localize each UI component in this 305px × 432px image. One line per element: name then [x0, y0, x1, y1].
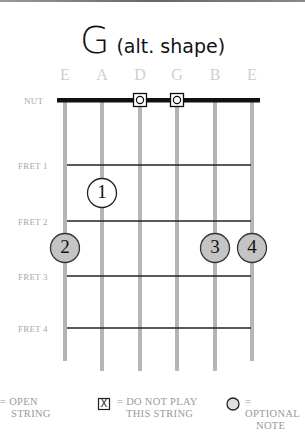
- optional-note-icon: [173, 96, 180, 103]
- finger-2-number: 2: [50, 236, 80, 258]
- string-g: [175, 101, 179, 371]
- legend-open-line2: STRING: [0, 408, 51, 420]
- nut-marker-g: [171, 94, 184, 107]
- finger-3-number: 3: [200, 236, 230, 258]
- legend-optional-line1: = OPTIONAL: [245, 396, 305, 420]
- optional-legend-icon: [227, 398, 239, 410]
- legend-optional-note: = OPTIONAL NOTE: [245, 396, 305, 432]
- string-high-e: [250, 101, 254, 361]
- finger-4-number: 4: [237, 236, 267, 258]
- legend-open-line1: = OPEN: [0, 396, 51, 408]
- nut-marker-d: [134, 94, 147, 107]
- mute-x-symbol: X: [98, 397, 110, 410]
- legend-open-string: = OPEN STRING: [0, 396, 51, 420]
- legend-optional-line2: NOTE: [245, 420, 305, 432]
- legend-mute-line1: = DO NOT PLAY: [117, 396, 198, 408]
- optional-note-icon: [136, 96, 143, 103]
- finger-1-number: 1: [87, 181, 117, 203]
- legend-mute-line2: THIS STRING: [117, 408, 198, 420]
- string-low-e: [63, 101, 67, 361]
- string-a: [100, 101, 104, 371]
- legend-do-not-play: = DO NOT PLAY THIS STRING: [117, 396, 198, 420]
- nut-bar: [57, 98, 260, 103]
- string-d: [138, 101, 142, 371]
